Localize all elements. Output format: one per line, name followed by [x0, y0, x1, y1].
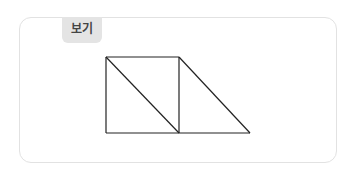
figure-line — [106, 57, 179, 133]
figure-line — [179, 57, 250, 133]
geometry-figure — [0, 0, 360, 176]
